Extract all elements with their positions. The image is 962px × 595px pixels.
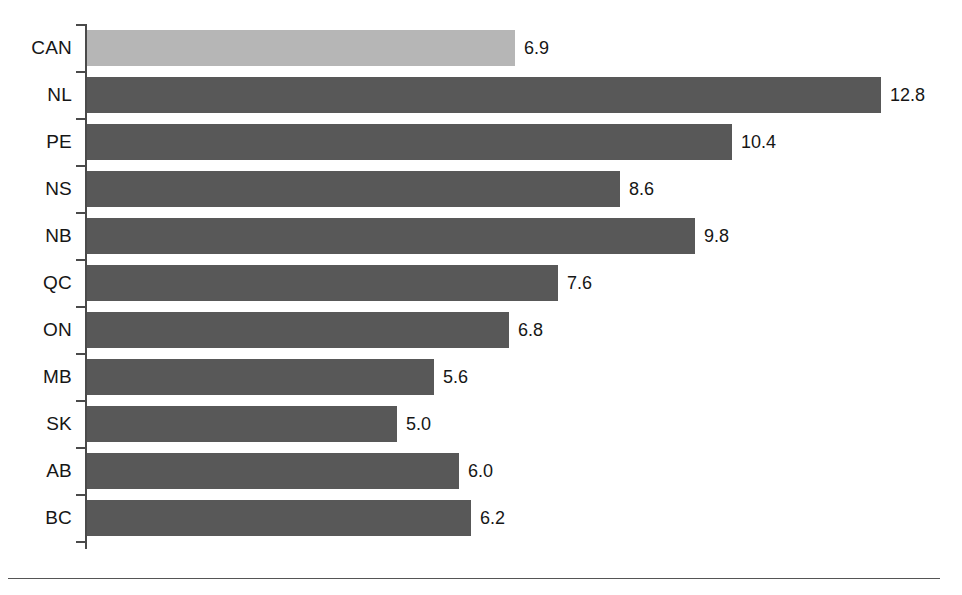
bar-row: QC7.6 (0, 259, 962, 306)
bar-value-ns: 8.6 (629, 178, 654, 199)
bar-pe (87, 124, 732, 160)
category-label-ns: NS (0, 178, 72, 200)
bar-on (87, 312, 509, 348)
bar-row: BC6.2 (0, 494, 962, 541)
category-label-nb: NB (0, 225, 72, 247)
bar-value-nb: 9.8 (704, 225, 729, 246)
plot-area: CAN6.9NL12.8PE10.4NS8.6NB9.8QC7.6ON6.8MB… (0, 0, 962, 560)
bar-sk (87, 406, 397, 442)
bar-qc (87, 265, 558, 301)
bar-can (87, 30, 515, 66)
category-label-qc: QC (0, 272, 72, 294)
bar-row: ON6.8 (0, 306, 962, 353)
category-label-nl: NL (0, 84, 72, 106)
bar-value-pe: 10.4 (741, 131, 776, 152)
bar-value-ab: 6.0 (468, 460, 493, 481)
bar-value-mb: 5.6 (443, 366, 468, 387)
bar-row: NL12.8 (0, 71, 962, 118)
bar-value-bc: 6.2 (480, 507, 505, 528)
category-label-ab: AB (0, 460, 72, 482)
category-label-bc: BC (0, 507, 72, 529)
category-label-can: CAN (0, 37, 72, 59)
bar-row: NB9.8 (0, 212, 962, 259)
bar-value-on: 6.8 (518, 319, 543, 340)
bar-value-qc: 7.6 (567, 272, 592, 293)
bar-ns (87, 171, 620, 207)
bar-nl (87, 77, 881, 113)
bar-bc (87, 500, 471, 536)
axis-tick (76, 541, 86, 543)
bar-ab (87, 453, 459, 489)
bar-row: AB6.0 (0, 447, 962, 494)
footer-rule (8, 578, 940, 579)
bar-value-can: 6.9 (524, 37, 549, 58)
category-label-mb: MB (0, 366, 72, 388)
bar-row: MB5.6 (0, 353, 962, 400)
bar-row: SK5.0 (0, 400, 962, 447)
bar-row: CAN6.9 (0, 24, 962, 71)
category-label-on: ON (0, 319, 72, 341)
category-label-pe: PE (0, 131, 72, 153)
bar-row: PE10.4 (0, 118, 962, 165)
category-label-sk: SK (0, 413, 72, 435)
bar-nb (87, 218, 695, 254)
bar-value-sk: 5.0 (406, 413, 431, 434)
bar-chart: CAN6.9NL12.8PE10.4NS8.6NB9.8QC7.6ON6.8MB… (0, 0, 962, 595)
bar-row: NS8.6 (0, 165, 962, 212)
bar-mb (87, 359, 434, 395)
bar-value-nl: 12.8 (890, 84, 925, 105)
